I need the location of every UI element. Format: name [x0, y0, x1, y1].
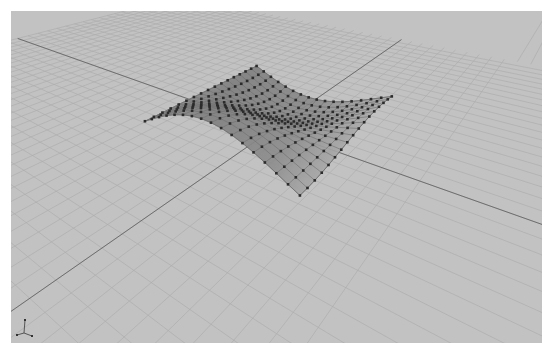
control-point[interactable] [235, 93, 238, 96]
control-point[interactable] [357, 127, 360, 130]
control-point[interactable] [327, 115, 330, 118]
control-point[interactable] [243, 99, 246, 102]
control-point[interactable] [251, 114, 254, 117]
control-point[interactable] [250, 137, 253, 140]
control-point[interactable] [390, 95, 393, 98]
control-point[interactable] [167, 112, 170, 115]
control-point[interactable] [293, 120, 296, 123]
control-point[interactable] [247, 89, 250, 92]
control-point[interactable] [316, 156, 319, 159]
control-point[interactable] [226, 109, 229, 112]
control-point[interactable] [322, 111, 325, 114]
control-point[interactable] [363, 121, 366, 124]
control-point[interactable] [355, 104, 358, 107]
control-point[interactable] [365, 102, 368, 105]
control-point[interactable] [274, 119, 277, 122]
control-point[interactable] [352, 121, 355, 124]
control-point[interactable] [287, 113, 290, 116]
control-point[interactable] [191, 109, 194, 112]
control-point[interactable] [307, 120, 310, 123]
control-point[interactable] [302, 169, 305, 172]
control-point[interactable] [313, 179, 316, 182]
control-point[interactable] [250, 67, 253, 70]
control-point[interactable] [177, 103, 180, 106]
control-point[interactable] [185, 103, 188, 106]
control-point[interactable] [241, 91, 244, 94]
nurbs-surface[interactable] [145, 66, 392, 195]
control-point[interactable] [279, 90, 282, 93]
control-point[interactable] [229, 122, 232, 125]
control-point[interactable] [264, 79, 267, 82]
control-point[interactable] [193, 96, 196, 99]
control-point[interactable] [303, 117, 306, 120]
control-point[interactable] [273, 111, 276, 114]
control-point[interactable] [289, 117, 292, 120]
control-point[interactable] [362, 112, 365, 115]
control-point[interactable] [261, 92, 264, 95]
control-point[interactable] [223, 101, 226, 104]
control-point[interactable] [309, 127, 312, 130]
control-point[interactable] [341, 132, 344, 135]
control-point[interactable] [327, 164, 330, 167]
control-point[interactable] [319, 128, 322, 131]
control-point[interactable] [257, 73, 260, 76]
control-point[interactable] [316, 120, 319, 123]
control-point[interactable] [169, 107, 172, 110]
control-point[interactable] [346, 141, 349, 144]
control-point[interactable] [266, 130, 269, 133]
control-point[interactable] [263, 101, 266, 104]
control-point[interactable] [246, 108, 249, 111]
control-point[interactable] [322, 150, 325, 153]
control-point[interactable] [305, 148, 308, 151]
control-point[interactable] [315, 98, 318, 101]
control-point[interactable] [298, 119, 301, 122]
control-point[interactable] [238, 104, 241, 107]
control-point[interactable] [207, 89, 210, 92]
control-point[interactable] [237, 100, 240, 103]
control-point[interactable] [321, 118, 324, 121]
control-point[interactable] [341, 116, 344, 119]
control-point[interactable] [298, 154, 301, 157]
perspective-viewport[interactable] [11, 11, 542, 343]
control-point[interactable] [281, 115, 284, 118]
control-point[interactable] [272, 117, 275, 120]
control-point[interactable] [261, 117, 264, 120]
control-point[interactable] [335, 126, 338, 129]
control-point[interactable] [272, 155, 275, 158]
control-point[interactable] [215, 98, 218, 101]
control-point[interactable] [284, 118, 287, 121]
control-point[interactable] [200, 98, 203, 101]
control-point[interactable] [313, 131, 316, 134]
control-point[interactable] [371, 104, 374, 107]
control-point[interactable] [271, 106, 274, 109]
control-point[interactable] [335, 138, 338, 141]
control-point[interactable] [244, 113, 247, 116]
control-point[interactable] [217, 107, 220, 110]
control-point[interactable] [159, 113, 162, 116]
control-point[interactable] [209, 113, 212, 116]
control-point[interactable] [284, 85, 287, 88]
control-point[interactable] [200, 92, 203, 95]
control-point[interactable] [331, 111, 334, 114]
control-point[interactable] [356, 110, 359, 113]
control-point[interactable] [234, 109, 237, 112]
control-point[interactable] [303, 128, 306, 131]
control-point[interactable] [192, 100, 195, 103]
control-point[interactable] [259, 83, 262, 86]
control-point[interactable] [302, 102, 305, 105]
control-point[interactable] [242, 110, 245, 113]
control-point[interactable] [268, 118, 271, 121]
control-point[interactable] [299, 194, 302, 197]
control-point[interactable] [287, 126, 290, 129]
control-point[interactable] [327, 106, 330, 109]
control-point[interactable] [351, 108, 354, 111]
control-point[interactable] [253, 86, 256, 89]
control-point[interactable] [283, 165, 286, 168]
control-point[interactable] [334, 156, 337, 159]
control-point[interactable] [287, 120, 290, 123]
control-point[interactable] [270, 122, 273, 125]
control-point[interactable] [370, 98, 373, 101]
control-point[interactable] [165, 114, 168, 117]
control-point[interactable] [297, 130, 300, 133]
control-point[interactable] [299, 125, 302, 128]
